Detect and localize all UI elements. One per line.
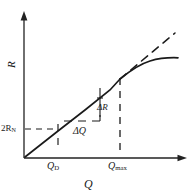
delta-q-bracket <box>64 115 100 121</box>
y-tick-base: 2R <box>1 123 12 133</box>
x-tick-subscript-qmax: max <box>115 164 127 171</box>
x-tick-subscript-qd: D <box>54 164 59 171</box>
plot-canvas <box>0 0 194 196</box>
annotation-delta-q-text: ΔQ <box>73 125 86 136</box>
y-axis <box>21 11 28 158</box>
annotation-delta-r-text: ΔR <box>97 102 108 112</box>
x-axis-label: Q <box>84 178 93 190</box>
y-axis-label: R <box>6 61 17 68</box>
x-tick-label-qd: QD <box>47 161 59 172</box>
x-tick-label-qmax: Qmax <box>108 161 127 172</box>
y-tick-label-2rn: 2RN <box>1 124 16 133</box>
chart-figure: R Q 2RN QD Qmax ΔQ ΔR <box>0 0 194 196</box>
annotation-delta-q: ΔQ <box>73 126 86 136</box>
annotation-delta-r: ΔR <box>97 103 108 112</box>
y-tick-subscript: N <box>12 127 16 133</box>
